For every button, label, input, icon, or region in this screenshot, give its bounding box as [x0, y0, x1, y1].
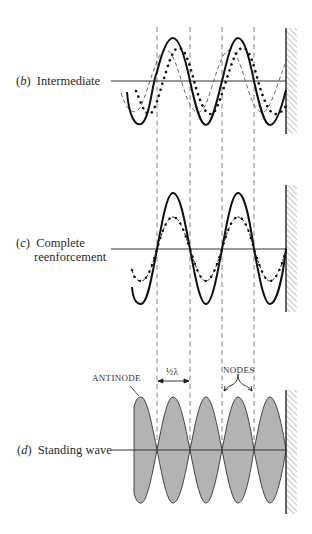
half-wavelength-arrow	[158, 379, 189, 383]
panel-c-complete-reenforcement	[111, 185, 297, 312]
panel-d-standing-wave	[111, 374, 297, 514]
label-panel-d: (d) Standing wave	[17, 443, 112, 457]
wall-c	[286, 185, 297, 312]
wall-b	[286, 28, 297, 134]
panel-c-title-line2: reenforcement	[16, 250, 106, 264]
panel-c-letter: c	[20, 236, 26, 250]
panel-b-title: Intermediate	[37, 74, 100, 88]
node-guide-lines	[157, 27, 254, 450]
panel-d-title: Standing wave	[38, 443, 112, 457]
antinode-label: ANTINODE	[92, 373, 141, 383]
nodes-label: NODES	[223, 365, 255, 375]
label-panel-c: (c) Completereenforcement	[16, 236, 106, 264]
antinode-pointer	[130, 386, 139, 396]
panel-b-letter: b	[20, 74, 26, 88]
panel-d-letter: d	[21, 443, 27, 457]
panel-c-title-line1: Complete	[36, 236, 85, 250]
panel-b-intermediate	[111, 28, 297, 134]
nodes-pointer	[224, 374, 252, 391]
wall-d	[286, 390, 297, 514]
label-panel-b: (b) Intermediate	[16, 74, 100, 88]
half-wavelength-label: ½λ	[166, 367, 178, 377]
